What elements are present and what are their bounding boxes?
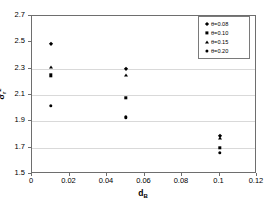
data-point <box>49 66 53 69</box>
legend-item-label: θ=0.10 <box>211 30 228 36</box>
gridline <box>32 95 255 96</box>
x-axis-label-subscript: B <box>143 193 147 199</box>
x-axis-tick-label: 0.08 <box>174 177 189 185</box>
legend-marker-icon <box>203 47 211 55</box>
legend-item: θ=0.20 <box>203 47 246 55</box>
y-axis-label-superscript: 2 <box>0 88 2 91</box>
legend-item: θ=0.08 <box>203 20 246 28</box>
gridline <box>32 121 255 122</box>
data-point <box>124 96 127 99</box>
data-point <box>124 116 127 119</box>
y-axis-label-base: σ <box>0 94 6 99</box>
y-axis-tick-label: 1.7 <box>15 143 25 151</box>
x-axis-tick-label: 0 <box>29 177 33 185</box>
legend-item-label: θ=0.08 <box>211 21 228 27</box>
x-axis-tick-label: 0.06 <box>136 177 151 185</box>
gridline <box>32 69 255 70</box>
data-point <box>123 66 128 71</box>
x-axis-tick-label: 0.12 <box>249 177 264 185</box>
legend-item: θ=0.10 <box>203 29 246 37</box>
legend-item: θ=0.15 <box>203 38 246 46</box>
data-point <box>49 104 52 107</box>
legend-marker-icon <box>203 38 211 46</box>
data-point <box>218 137 222 140</box>
data-point <box>218 146 221 149</box>
y-axis-tick-label: 2.7 <box>15 11 25 19</box>
legend-marker-icon <box>203 29 211 37</box>
y-axis-label: σr2 <box>0 74 8 114</box>
x-axis-tick-label: 0.04 <box>99 177 114 185</box>
legend-marker-icon <box>203 20 211 28</box>
y-axis-tick-label: 2.1 <box>15 90 25 98</box>
y-axis-label-subscript: r <box>1 92 7 94</box>
data-point <box>48 41 53 46</box>
data-point <box>49 74 52 77</box>
y-axis-tick-label: 2.5 <box>15 38 25 46</box>
data-point <box>124 74 128 77</box>
legend: θ=0.08θ=0.10θ=0.15θ=0.20 <box>198 16 250 59</box>
gridline <box>32 148 255 149</box>
y-axis-tick-label: 2.3 <box>15 64 25 72</box>
y-axis-tick-label: 1.5 <box>15 169 25 177</box>
chart-figure: σr2 dB 1.51.71.92.12.32.52.700.020.040.0… <box>0 0 267 208</box>
x-axis-tick-label: 0.02 <box>61 177 76 185</box>
data-point <box>218 151 221 154</box>
x-axis-label: dB <box>138 189 148 201</box>
y-axis-tick-label: 1.9 <box>15 117 25 125</box>
x-axis-tick-label: 0.1 <box>213 177 223 185</box>
legend-item-label: θ=0.20 <box>211 48 228 54</box>
legend-item-label: θ=0.15 <box>211 39 228 45</box>
